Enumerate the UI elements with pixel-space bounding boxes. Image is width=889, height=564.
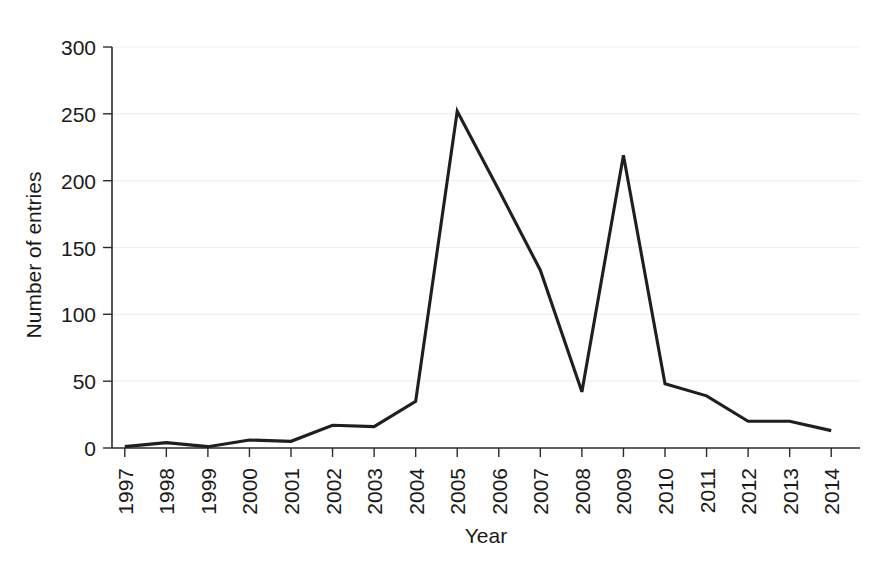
x-tick-label-2002: 2002 [322, 468, 345, 515]
y-tick-label-0: 0 [84, 437, 96, 460]
y-tick-label-150: 150 [61, 237, 96, 260]
x-tick-label-2001: 2001 [280, 468, 303, 515]
x-tick-label-2008: 2008 [571, 468, 594, 515]
y-tick-label-250: 250 [61, 103, 96, 126]
x-tick-label-2013: 2013 [779, 468, 802, 515]
x-axis-title: Year [465, 524, 507, 547]
x-tick-label-2005: 2005 [446, 468, 469, 515]
y-tick-label-100: 100 [61, 303, 96, 326]
x-tick-label-1999: 1999 [197, 468, 220, 515]
x-tick-label-2004: 2004 [405, 468, 428, 515]
x-tick-label-2012: 2012 [737, 468, 760, 515]
x-tick-label-2006: 2006 [488, 468, 511, 515]
x-tick-label-1998: 1998 [155, 468, 178, 515]
line-chart-canvas: 300 250 200 150 100 50 0 199719981999200… [0, 0, 889, 564]
x-tick-label-1997: 1997 [114, 468, 137, 515]
x-tick-label-2003: 2003 [363, 468, 386, 515]
chart-figure: 300 250 200 150 100 50 0 199719981999200… [0, 0, 889, 564]
x-tick-label-2010: 2010 [654, 468, 677, 515]
x-tick-label-2014: 2014 [820, 468, 843, 515]
y-tick-label-50: 50 [73, 370, 96, 393]
x-tick-label-2007: 2007 [529, 468, 552, 515]
y-tick-label-300: 300 [61, 36, 96, 59]
y-axis-title: Number of entries [22, 172, 45, 339]
x-tick-label-2011: 2011 [696, 468, 719, 513]
y-tick-label-200: 200 [61, 170, 96, 193]
x-tick-label-2009: 2009 [612, 468, 635, 515]
x-tick-label-2000: 2000 [238, 468, 261, 515]
